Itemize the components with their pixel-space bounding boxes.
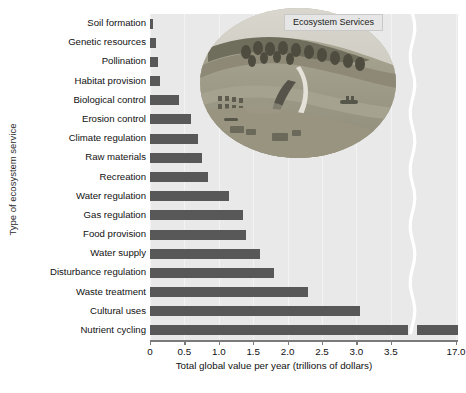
x-axis-tick-label: 1.0	[212, 346, 226, 357]
category-label: Nutrient cycling	[18, 325, 146, 335]
x-axis-label-text: Total global value per year (trillions o…	[92, 360, 373, 371]
inset-illustration: Ecosystem Services	[200, 8, 396, 158]
inset-label: Ecosystem Services	[284, 14, 383, 31]
x-axis-tick	[322, 340, 323, 345]
category-label: Habitat provision	[18, 76, 146, 86]
x-axis-tick-label: 3.0	[350, 346, 364, 357]
x-axis-tick	[219, 340, 220, 345]
category-label: Cultural uses	[18, 306, 146, 316]
category-label: Raw materials	[18, 152, 146, 162]
axis-break-marker	[408, 14, 417, 340]
x-axis-tick-label: 1.5	[246, 346, 260, 357]
x-axis-tick-label: 17.0	[446, 346, 465, 357]
category-label: Water regulation	[18, 191, 146, 201]
category-label: Genetic resources	[18, 37, 146, 47]
bar	[150, 153, 202, 163]
x-axis-label: Total global value per year (trillions o…	[0, 360, 464, 371]
x-axis-tick	[456, 340, 457, 345]
category-label: Pollination	[18, 56, 146, 66]
category-label: Waste treatment	[18, 287, 146, 297]
bar-segment-outlier	[417, 325, 458, 335]
x-axis-tick	[288, 340, 289, 345]
x-axis-tick	[150, 340, 151, 345]
category-label: Gas regulation	[18, 210, 146, 220]
bar	[150, 134, 198, 144]
bar	[150, 95, 179, 105]
x-axis-tick-label: 0	[147, 346, 152, 357]
category-label-column: Soil formationGenetic resourcesPollinati…	[18, 14, 146, 340]
x-axis-tick	[391, 340, 392, 345]
bar	[150, 268, 274, 278]
x-axis-line	[150, 340, 458, 342]
bar	[150, 114, 191, 124]
category-label: Recreation	[18, 172, 146, 182]
x-axis-tick	[253, 340, 254, 345]
x-axis-tick-label: 0.5	[178, 346, 192, 357]
category-label: Biological control	[18, 95, 146, 105]
bar	[150, 76, 160, 86]
category-label: Climate regulation	[18, 133, 146, 143]
gridline	[456, 14, 457, 340]
x-axis-tick	[356, 340, 357, 345]
x-axis-tick	[184, 340, 185, 345]
category-label: Disturbance regulation	[18, 267, 146, 277]
bar	[150, 249, 260, 259]
category-label: Erosion control	[18, 114, 146, 124]
y-axis-label: Type of ecosystem service	[7, 80, 18, 280]
x-axis-tick-label: 3.5	[384, 346, 398, 357]
x-axis-tick-label: 2.0	[281, 346, 295, 357]
category-label: Soil formation	[18, 18, 146, 28]
bar	[150, 38, 156, 48]
bar	[150, 306, 360, 316]
bar	[150, 210, 243, 220]
bar	[150, 19, 153, 29]
x-axis-tick-label: 2.5	[315, 346, 329, 357]
bar	[150, 172, 208, 182]
bar	[150, 191, 229, 201]
category-label: Water supply	[18, 248, 146, 258]
bar	[150, 57, 158, 67]
category-label: Food provision	[18, 229, 146, 239]
bar	[150, 230, 246, 240]
bar	[150, 287, 308, 297]
bar-segment-main	[150, 325, 408, 335]
